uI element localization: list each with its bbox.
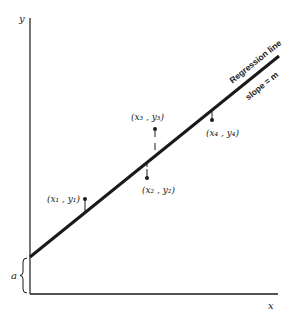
y-axis-label: y bbox=[18, 13, 25, 24]
regression-line bbox=[30, 56, 279, 257]
intercept-brace bbox=[20, 258, 27, 293]
intercept-label: a bbox=[11, 270, 17, 281]
data-point-3 bbox=[153, 127, 157, 150]
x-axis-label: x bbox=[268, 300, 274, 311]
point-2-label: (x₂ , y₂) bbox=[142, 185, 175, 195]
point-4-label: (x₄ , y₄) bbox=[206, 128, 239, 138]
point-3-label: (x₃ , y₃) bbox=[131, 112, 164, 122]
slope-label: slope = m bbox=[243, 69, 280, 102]
point-1-label: (x₁ , y₁) bbox=[47, 194, 80, 204]
regression-diagram: y x a Regression line slope = m (x₁ , y₁… bbox=[0, 0, 294, 317]
